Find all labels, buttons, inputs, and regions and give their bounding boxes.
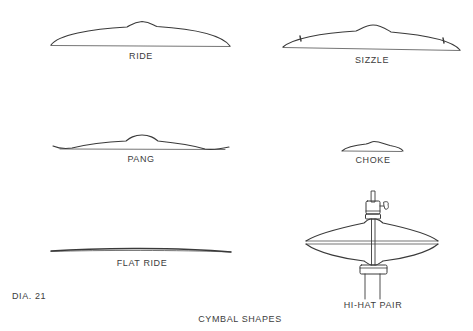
sizzle-rivet (300, 36, 301, 41)
pang-label: PANG (127, 154, 154, 164)
sizzle-label: SIZZLE (355, 55, 389, 65)
figure-caption: CYMBAL SHAPES (198, 314, 282, 324)
hi-hat-pair-drawing (306, 191, 438, 299)
pang-cymbal-drawing (53, 135, 229, 150)
sizzle-cymbal-drawing (283, 25, 460, 51)
flat-ride-cymbal-drawing (51, 248, 231, 252)
wing-nut-icon (384, 202, 388, 210)
choke-cymbal-drawing (342, 142, 403, 152)
sizzle-rivet (443, 38, 444, 43)
choke-label: CHOKE (355, 155, 390, 165)
ride-cymbal-drawing (51, 22, 230, 47)
figure-id: DIA. 21 (12, 291, 46, 301)
hi-hat-pair-label: HI-HAT PAIR (344, 300, 403, 310)
ride-label: RIDE (129, 51, 153, 61)
flat-ride-label: FLAT RIDE (117, 258, 168, 268)
